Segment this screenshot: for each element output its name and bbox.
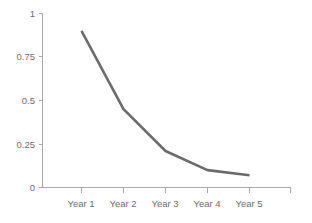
chart-container: 1 0.75 0.5 0.25 0 Year 1 Year 2 Year 3 Y… xyxy=(0,0,312,223)
y-tick-label-025: 0.25 xyxy=(17,139,36,150)
chart-background xyxy=(0,0,312,223)
x-tick-label-year-3: Year 3 xyxy=(151,198,178,209)
y-tick-label-0: 0 xyxy=(30,182,35,193)
y-tick-label-075: 0.75 xyxy=(17,51,36,62)
x-tick-label-year-1: Year 1 xyxy=(67,198,94,209)
y-tick-label-05: 0.5 xyxy=(22,95,35,106)
x-tick-label-year-2: Year 2 xyxy=(109,198,136,209)
x-tick-label-year-4: Year 4 xyxy=(193,198,220,209)
x-tick-label-year-5: Year 5 xyxy=(235,198,262,209)
y-tick-label-1: 1 xyxy=(30,8,35,19)
line-chart: 1 0.75 0.5 0.25 0 Year 1 Year 2 Year 3 Y… xyxy=(0,0,312,223)
